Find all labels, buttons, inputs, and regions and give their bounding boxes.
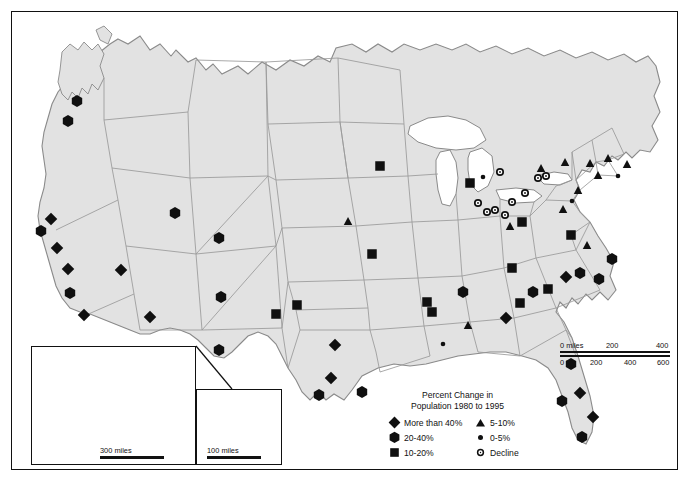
square-icon bbox=[386, 446, 402, 459]
legend-label-more-than-40: More than 40% bbox=[402, 418, 462, 428]
city-symbol-decline bbox=[509, 199, 515, 205]
city-symbol-decline bbox=[492, 207, 498, 213]
legend-column-left: More than 40% 20-40% 10-20% bbox=[386, 415, 472, 460]
legend-label-5-10: 5-10% bbox=[488, 418, 515, 428]
scale-km-400: 400 bbox=[624, 358, 636, 367]
city-symbol-decline bbox=[475, 200, 481, 206]
city-symbol-10-20 bbox=[375, 161, 385, 171]
legend-item-20-40: 20-40% bbox=[386, 430, 472, 445]
hawaii-scale-bar: 100 miles bbox=[207, 446, 273, 460]
hawaii-scale-label: 100 miles bbox=[207, 446, 239, 455]
main-scale-bar: 0 miles 200 400 0 km 200 400 600 bbox=[560, 341, 672, 371]
hexagon-icon bbox=[386, 431, 402, 444]
city-symbol-10-20 bbox=[292, 300, 302, 310]
legend-item-more-than-40: More than 40% bbox=[386, 415, 472, 430]
triangle-icon bbox=[472, 417, 488, 428]
city-symbol-10-20 bbox=[465, 178, 475, 188]
city-symbol-dot bbox=[570, 199, 575, 204]
legend-label-0-5: 0-5% bbox=[488, 433, 510, 443]
legend-label-decline: Decline bbox=[488, 448, 519, 458]
population-change-map: Percent Change in Population 1980 to 199… bbox=[0, 0, 688, 486]
legend-title-line2: Population 1980 to 1995 bbox=[380, 401, 535, 412]
scale-km-0: 0 km bbox=[560, 358, 576, 367]
city-symbol-dot bbox=[481, 175, 486, 180]
city-symbol-dot bbox=[441, 342, 446, 347]
legend-title: Percent Change in Population 1980 to 199… bbox=[380, 390, 535, 412]
scale-km-600: 600 bbox=[657, 358, 669, 367]
legend-label-10-20: 10-20% bbox=[402, 448, 434, 458]
scale-miles-200: 200 bbox=[606, 341, 618, 350]
diamond-icon bbox=[386, 416, 402, 429]
city-symbol-decline bbox=[535, 175, 541, 181]
city-symbol-decline bbox=[502, 212, 508, 218]
city-symbol-decline bbox=[543, 173, 549, 179]
dot-icon bbox=[472, 432, 488, 443]
scale-miles-400: 400 bbox=[656, 341, 668, 350]
city-symbol-20-40 bbox=[357, 386, 367, 398]
scale-miles-0: 0 miles bbox=[560, 341, 583, 350]
legend-item-5-10: 5-10% bbox=[472, 415, 546, 430]
city-symbol-10-20 bbox=[566, 230, 576, 240]
legend-column-right: 5-10% 0-5% Decline bbox=[472, 415, 546, 460]
city-symbol-10-20 bbox=[271, 309, 281, 319]
city-symbol-10-20 bbox=[515, 298, 525, 308]
city-symbol-decline bbox=[497, 169, 503, 175]
city-symbol-10-20 bbox=[427, 307, 437, 317]
city-symbol-5-10 bbox=[623, 160, 632, 168]
legend-item-decline: Decline bbox=[472, 445, 546, 460]
city-symbol-10-20 bbox=[543, 284, 553, 294]
legend-title-line1: Percent Change in bbox=[380, 390, 535, 401]
legend-label-20-40: 20-40% bbox=[402, 433, 434, 443]
city-symbol-10-20 bbox=[517, 217, 527, 227]
alaska-scale-bar: 300 miles bbox=[100, 446, 178, 460]
alaska-scale-label: 300 miles bbox=[100, 446, 132, 455]
legend-item-0-5: 0-5% bbox=[472, 430, 546, 445]
scale-km-200: 200 bbox=[590, 358, 602, 367]
city-symbol-10-20 bbox=[507, 263, 517, 273]
city-symbol-10-20 bbox=[422, 297, 432, 307]
city-symbol-decline bbox=[484, 209, 490, 215]
city-symbol-10-20 bbox=[367, 249, 377, 259]
city-symbol-decline bbox=[522, 190, 528, 196]
open-circle-icon bbox=[472, 447, 488, 458]
city-symbol-dot bbox=[616, 174, 621, 179]
legend-item-10-20: 10-20% bbox=[386, 445, 472, 460]
